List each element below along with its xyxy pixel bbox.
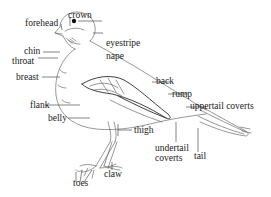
leader-forehead xyxy=(61,24,62,30)
label-chin: chin xyxy=(24,46,40,56)
label-undertail-coverts-1: undertail xyxy=(155,143,189,153)
label-breast: breast xyxy=(16,72,39,82)
label-undertail-coverts-2: coverts xyxy=(155,153,182,163)
label-rump: rump xyxy=(172,89,192,99)
label-uppertail-coverts: uppertail coverts xyxy=(190,101,254,111)
label-tail: tail xyxy=(194,151,206,161)
label-claw: claw xyxy=(104,169,122,179)
label-flank: flank xyxy=(30,100,50,110)
label-toes: toes xyxy=(73,178,88,188)
label-thigh: thigh xyxy=(134,125,154,135)
label-forehead: forehead xyxy=(25,18,58,28)
label-throat: throat xyxy=(12,56,34,66)
label-crown: crown xyxy=(68,10,92,20)
label-nape: nape xyxy=(106,51,124,61)
bird-illustration xyxy=(0,0,271,197)
label-belly: belly xyxy=(48,113,67,123)
label-back: back xyxy=(156,76,174,86)
label-eyestripe: eyestripe xyxy=(106,38,140,48)
bird-body xyxy=(56,41,206,130)
bird-anatomy-diagram: forehead crown eyestripe nape chin throa… xyxy=(0,0,271,197)
